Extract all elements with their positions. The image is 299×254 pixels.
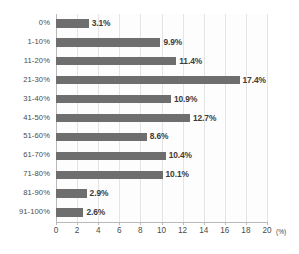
bar-row: 21-30%17.4% xyxy=(0,71,299,90)
tick-mark xyxy=(267,222,268,225)
bar-row: 1-10%9.9% xyxy=(0,33,299,52)
bar-container: 11.4% xyxy=(56,52,299,71)
tick-mark xyxy=(77,222,78,225)
bar-row: 11-20%11.4% xyxy=(0,52,299,71)
bar-row: 41-50%12.7% xyxy=(0,109,299,128)
bar-container: 12.7% xyxy=(56,109,299,128)
bar-row: 51-60%8.6% xyxy=(0,127,299,146)
bar xyxy=(56,152,166,160)
bar-value-label: 2.6% xyxy=(86,203,105,222)
bar-chart: 0%3.1%1-10%9.9%11-20%11.4%21-30%17.4%31-… xyxy=(0,0,299,254)
bar xyxy=(56,208,83,216)
bar-row: 0%3.1% xyxy=(0,14,299,33)
x-axis-tick-label: 2 xyxy=(67,226,87,235)
tick-mark xyxy=(140,222,141,225)
x-axis-tick-label: 16 xyxy=(215,226,235,235)
bar-container: 3.1% xyxy=(56,14,299,33)
bar-row: 91-100%2.6% xyxy=(0,203,299,222)
bar-row: 81-90%2.9% xyxy=(0,184,299,203)
category-label: 21-30% xyxy=(0,71,50,90)
bar xyxy=(56,38,160,46)
bar-container: 2.6% xyxy=(56,203,299,222)
x-axis-tick-label: 20 xyxy=(257,226,277,235)
category-label: 61-70% xyxy=(0,146,50,165)
tick-mark xyxy=(246,222,247,225)
tick-mark xyxy=(183,222,184,225)
category-label: 91-100% xyxy=(0,203,50,222)
bar-value-label: 9.9% xyxy=(163,33,182,52)
bar-container: 17.4% xyxy=(56,71,299,90)
category-label: 81-90% xyxy=(0,184,50,203)
category-label: 71-80% xyxy=(0,165,50,184)
bar-row: 71-80%10.1% xyxy=(0,165,299,184)
bar-value-label: 2.9% xyxy=(90,184,109,203)
category-label: 41-50% xyxy=(0,109,50,128)
bar-value-label: 10.4% xyxy=(169,146,192,165)
bar xyxy=(56,19,89,27)
category-label: 1-10% xyxy=(0,33,50,52)
bar xyxy=(56,114,190,122)
tick-mark xyxy=(204,222,205,225)
bar-container: 10.9% xyxy=(56,90,299,109)
tick-mark xyxy=(162,222,163,225)
bar xyxy=(56,171,163,179)
tick-mark xyxy=(98,222,99,225)
x-axis-tick-label: 12 xyxy=(173,226,193,235)
bar xyxy=(56,57,176,65)
bar xyxy=(56,76,240,84)
tick-mark xyxy=(56,222,57,225)
bar-container: 2.9% xyxy=(56,184,299,203)
bar xyxy=(56,189,87,197)
bar-value-label: 17.4% xyxy=(243,71,266,90)
category-label: 11-20% xyxy=(0,52,50,71)
bar-value-label: 3.1% xyxy=(92,14,111,33)
x-axis-tick-label: 4 xyxy=(88,226,108,235)
x-axis-tick-label: 6 xyxy=(109,226,129,235)
bar xyxy=(56,95,171,103)
category-label: 0% xyxy=(0,14,50,33)
bar-value-label: 12.7% xyxy=(193,109,216,128)
x-axis-tick-label: 14 xyxy=(194,226,214,235)
bar-value-label: 11.4% xyxy=(179,52,202,71)
category-label: 31-40% xyxy=(0,90,50,109)
bar-container: 10.4% xyxy=(56,146,299,165)
bar-row: 61-70%10.4% xyxy=(0,146,299,165)
bar-value-label: 10.9% xyxy=(174,90,197,109)
bar-container: 8.6% xyxy=(56,127,299,146)
tick-mark xyxy=(225,222,226,225)
bar-value-label: 10.1% xyxy=(166,165,189,184)
x-axis-tick-label: 8 xyxy=(130,226,150,235)
tick-mark xyxy=(119,222,120,225)
category-label: 51-60% xyxy=(0,127,50,146)
x-axis-tick-label: 0 xyxy=(46,226,66,235)
bar xyxy=(56,133,147,141)
x-axis-unit-label: (%) xyxy=(276,228,286,235)
bar-container: 10.1% xyxy=(56,165,299,184)
x-axis-tick-label: 18 xyxy=(236,226,256,235)
bar-container: 9.9% xyxy=(56,33,299,52)
bar-value-label: 8.6% xyxy=(150,127,169,146)
bar-row: 31-40%10.9% xyxy=(0,90,299,109)
x-axis-tick-label: 10 xyxy=(152,226,172,235)
